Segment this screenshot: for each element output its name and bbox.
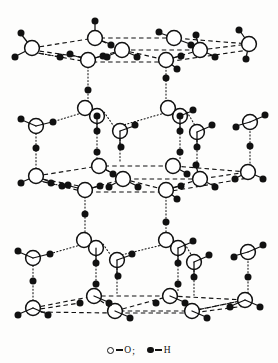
hydrogen-atom bbox=[231, 254, 238, 261]
hydrogen-atom bbox=[212, 54, 219, 61]
bottom-plane bbox=[33, 296, 245, 313]
hydrogen-atom bbox=[177, 128, 184, 135]
hydrogen-atom bbox=[110, 171, 117, 178]
hydrogen-atom bbox=[67, 51, 74, 58]
hydrogen-atom bbox=[163, 219, 170, 226]
legend-item-hydrogen: H bbox=[147, 345, 171, 355]
lattice-diagram: .hb { stroke:#111; stroke-width:1.05; fi… bbox=[0, 0, 278, 335]
bottom-layer-bonds bbox=[33, 236, 248, 304]
top-layer-bonds bbox=[16, 22, 249, 104]
oxygen-atom bbox=[81, 53, 96, 68]
hydrogen-atom bbox=[206, 252, 213, 259]
oxygen-atom bbox=[25, 41, 40, 56]
hydrogen-atom bbox=[59, 183, 66, 190]
hydrogen-atom bbox=[153, 300, 160, 307]
hydrogen-atom bbox=[18, 180, 25, 187]
hydrogen-atom bbox=[233, 124, 240, 131]
hydrogen-atom bbox=[156, 29, 163, 36]
hydrogen-atom bbox=[190, 238, 197, 245]
hydrogen-atom bbox=[245, 274, 252, 281]
hydrogen-atom bbox=[257, 304, 264, 311]
hydrogen-atom bbox=[115, 273, 122, 280]
hydrogen-atom bbox=[182, 300, 189, 307]
hydrogen-atom bbox=[134, 54, 141, 61]
oxygen-atom bbox=[159, 53, 174, 68]
oxygen-atom bbox=[166, 159, 181, 174]
legend-item-oxygen: O ; bbox=[107, 345, 138, 355]
hydrogen-atom bbox=[209, 122, 216, 129]
oxygen-atom bbox=[193, 172, 208, 187]
hydrogen-atom bbox=[108, 42, 115, 49]
oxygen-atom bbox=[92, 159, 107, 174]
hydrogen-atom bbox=[227, 304, 234, 311]
legend-dash-icon bbox=[116, 349, 123, 350]
oxygen-atom bbox=[159, 183, 174, 198]
hydrogen-atom bbox=[174, 66, 181, 73]
hydrogen-atom bbox=[236, 27, 243, 34]
hydrogen-atom bbox=[184, 171, 191, 178]
hydrogen-atom bbox=[260, 242, 267, 249]
hydrogen-atom bbox=[57, 54, 64, 61]
hydrogen-atom bbox=[129, 251, 136, 258]
oxygen-atom bbox=[193, 43, 208, 58]
hydrogen-atom bbox=[191, 274, 198, 281]
hydrogen-atom bbox=[45, 312, 52, 319]
ice-lattice-figure: .hb { stroke:#111; stroke-width:1.05; fi… bbox=[0, 0, 278, 363]
hydrogen-atom bbox=[106, 300, 113, 307]
hydrogen-atom bbox=[260, 176, 267, 183]
hydrogen-atom bbox=[77, 300, 84, 307]
hydrogen-atom bbox=[50, 119, 57, 126]
hydrogen-atom bbox=[18, 116, 25, 123]
hydrogen-atom bbox=[104, 54, 111, 61]
hydrogen-atom bbox=[193, 162, 200, 169]
hydrogen-atom bbox=[47, 251, 54, 258]
hydrogen-atom bbox=[127, 315, 134, 322]
hydrogen-atom bbox=[106, 184, 113, 191]
hydrogen-atom bbox=[97, 183, 104, 190]
hydrogen-atom bbox=[93, 281, 100, 288]
hydrogen-atom bbox=[262, 112, 269, 119]
hydrogen-atom bbox=[65, 182, 72, 189]
oxygen-atom bbox=[78, 183, 93, 198]
hydrogen-atom bbox=[190, 107, 197, 114]
bottom-layer-atoms bbox=[15, 233, 267, 288]
center-layer-bonds bbox=[22, 166, 262, 236]
hydrogen-atom bbox=[175, 281, 182, 288]
middle-layer-atoms bbox=[18, 101, 269, 156]
center-layer-atoms bbox=[18, 159, 267, 226]
hydrogen-atom bbox=[85, 87, 92, 94]
hydrogen-atom bbox=[94, 128, 101, 135]
hydrogen-atom bbox=[18, 30, 25, 37]
hydrogen-atom bbox=[15, 248, 22, 255]
filled-circle-icon bbox=[147, 347, 154, 354]
hydrogen-atom bbox=[175, 260, 182, 267]
hydrogen-atom bbox=[15, 312, 22, 319]
hydrogen-atom bbox=[194, 144, 201, 151]
oxygen-atom bbox=[241, 165, 256, 180]
hydrogen-atom bbox=[30, 278, 37, 285]
hydrogen-atom bbox=[163, 75, 170, 82]
hydrogen-atom bbox=[12, 54, 19, 61]
top-layer-atoms bbox=[12, 18, 257, 94]
hydrogen-atom bbox=[132, 122, 139, 129]
hydrogen-atom bbox=[82, 211, 89, 218]
oxygen-atom bbox=[88, 31, 103, 46]
hydrogen-atom bbox=[118, 144, 125, 151]
hydrogen-atom bbox=[135, 184, 142, 191]
hydrogen-atom bbox=[243, 56, 250, 63]
oxygen-atom bbox=[242, 37, 257, 52]
legend-label-oxygen: O bbox=[124, 346, 131, 356]
hydrogen-atom bbox=[33, 145, 40, 152]
oxygen-atom bbox=[115, 43, 130, 58]
hydrogen-atom bbox=[177, 149, 184, 156]
hydrogen-atom bbox=[174, 196, 181, 203]
oxygen-atom bbox=[167, 31, 182, 46]
open-circle-icon bbox=[107, 347, 114, 354]
hydrogen-atom bbox=[178, 183, 185, 190]
hydrogen-atom bbox=[193, 32, 200, 39]
middle-layer-bonds bbox=[36, 104, 250, 170]
hydrogen-atom bbox=[93, 260, 100, 267]
legend-dash-icon bbox=[155, 349, 162, 350]
hydrogen-atom bbox=[178, 53, 185, 60]
hydrogen-atom bbox=[48, 180, 55, 187]
